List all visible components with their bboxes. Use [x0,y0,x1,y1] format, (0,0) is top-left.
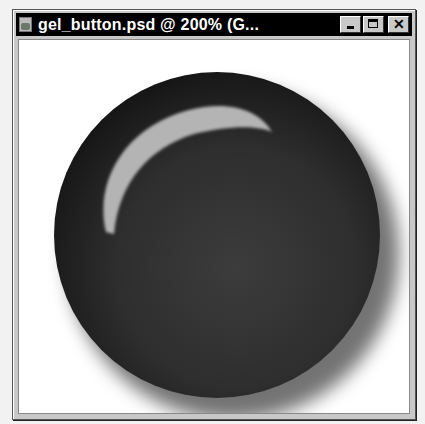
gel-highlight-icon [54,72,380,398]
document-icon[interactable] [19,17,33,33]
document-window: gel_button.psd @ 200% (G... ✕ [12,9,416,420]
document-canvas[interactable] [18,39,410,414]
window-title: gel_button.psd @ 200% (G... [38,16,259,34]
close-button[interactable]: ✕ [388,16,409,33]
window-controls: ✕ [340,16,409,33]
minimize-button[interactable] [340,16,361,33]
maximize-button[interactable] [363,16,384,33]
close-icon: ✕ [393,16,405,32]
